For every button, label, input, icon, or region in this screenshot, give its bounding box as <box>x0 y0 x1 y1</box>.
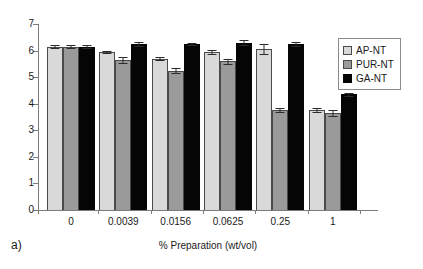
x-tick-mark <box>203 210 204 214</box>
plot-area: 01234567 00.00390.01560.06250.251 <box>38 24 378 210</box>
y-tick-label: 3 <box>28 125 34 135</box>
bar-slot <box>204 24 220 210</box>
error-bar-cap-lower <box>276 112 285 113</box>
x-tick-label: 1 <box>330 216 336 227</box>
bar-ga-nt-1 <box>341 94 357 210</box>
error-bar-cap-upper <box>171 68 180 69</box>
error-bar-cap-lower <box>187 45 196 46</box>
error-bar-line <box>264 44 265 54</box>
x-tick-mark <box>98 210 99 214</box>
x-tick-label: 0.0039 <box>108 216 139 227</box>
bar-ap-nt-0 <box>47 47 63 210</box>
error-bar-cap-upper <box>51 45 60 46</box>
error-bar-cap-upper <box>312 108 321 109</box>
bar-group-bars <box>98 24 150 210</box>
y-tick-label: 1 <box>28 178 34 188</box>
bar-ap-nt-0.0625 <box>204 52 220 210</box>
error-bar-cap-lower <box>51 48 60 49</box>
x-tick-mark <box>360 210 361 214</box>
legend-label: GA-NT <box>356 73 387 84</box>
bar-ga-nt-0.0625 <box>236 43 252 210</box>
error-bar-cap-lower <box>135 46 144 47</box>
legend-label: PUR-NT <box>356 59 394 70</box>
error-bar-cap-lower <box>240 45 249 46</box>
legend-item-ap-nt: AP-NT <box>343 43 394 57</box>
bar-group-bars <box>203 24 255 210</box>
bar-pur-nt-0.25 <box>272 110 288 210</box>
bar-pur-nt-1 <box>325 113 341 210</box>
y-tick-label: 7 <box>28 19 34 29</box>
error-bar-cap-upper <box>208 50 217 51</box>
x-tick-label: 0.0625 <box>213 216 244 227</box>
bar-slot <box>99 24 115 210</box>
error-bar-cap-upper <box>135 42 144 43</box>
bar-slot <box>256 24 272 210</box>
y-tick-label: 6 <box>28 46 34 56</box>
bar-slot <box>168 24 184 210</box>
bar-slot <box>63 24 79 210</box>
error-bar-cap-lower <box>103 53 112 54</box>
y-axis-line <box>38 24 39 211</box>
x-tick-label: 0 <box>68 216 74 227</box>
error-bar-cap-lower <box>344 96 353 97</box>
panel-label: a) <box>11 238 22 252</box>
bar-group <box>151 24 203 210</box>
x-tick-mark <box>151 210 152 214</box>
bar-group-bars <box>255 24 307 210</box>
x-axis-title: % Preparation (wt/vol) <box>38 240 378 251</box>
bar-pur-nt-0.0156 <box>168 71 184 211</box>
bar-ga-nt-0.0039 <box>131 44 147 210</box>
bar-group <box>46 24 98 210</box>
legend-swatch-pur-nt <box>343 60 352 69</box>
bar-group-bars <box>151 24 203 210</box>
error-bar-cap-lower <box>224 64 233 65</box>
bar-slot <box>47 24 63 210</box>
error-bar-cap-upper <box>328 110 337 111</box>
error-bar-cap-upper <box>292 42 301 43</box>
bar-group <box>203 24 255 210</box>
error-bar-cap-lower <box>312 112 321 113</box>
error-bar-cap-upper <box>187 43 196 44</box>
error-bar-cap-upper <box>83 45 92 46</box>
error-bar-cap-lower <box>260 54 269 55</box>
bar-ap-nt-1 <box>309 110 325 210</box>
error-bar-cap-lower <box>292 46 301 47</box>
bar-group <box>98 24 150 210</box>
error-bar-cap-upper <box>240 40 249 41</box>
bar-pur-nt-0 <box>63 47 79 210</box>
bar-ap-nt-0.0039 <box>99 52 115 210</box>
error-bar-cap-upper <box>155 57 164 58</box>
legend-item-pur-nt: PUR-NT <box>343 57 394 71</box>
error-bar-cap-lower <box>67 48 76 49</box>
x-tick-mark <box>255 210 256 214</box>
bar-group <box>255 24 307 210</box>
bar-slot <box>288 24 304 210</box>
error-bar-cap-lower <box>83 48 92 49</box>
bar-slot <box>115 24 131 210</box>
bar-ga-nt-0.25 <box>288 44 304 210</box>
bar-chart-figure: 01234567 00.00390.01560.06250.251 % Prep… <box>0 0 423 269</box>
error-bar-cap-upper <box>103 51 112 52</box>
bar-pur-nt-0.0625 <box>220 61 236 210</box>
chart-legend: AP-NTPUR-NTGA-NT <box>338 38 401 90</box>
bar-ap-nt-0.25 <box>256 49 272 210</box>
x-tick-label: 0.0156 <box>160 216 191 227</box>
error-bar-cap-upper <box>67 45 76 46</box>
bar-slot <box>79 24 95 210</box>
error-bar-cap-lower <box>119 63 128 64</box>
bar-slot <box>309 24 325 210</box>
bar-slot <box>272 24 288 210</box>
bar-ap-nt-0.0156 <box>152 59 168 210</box>
bar-ga-nt-0 <box>79 47 95 210</box>
x-tick-mark <box>38 210 39 214</box>
y-tick-label: 0 <box>28 205 34 215</box>
legend-swatch-ap-nt <box>343 46 352 55</box>
x-tick-label: 0.25 <box>271 216 290 227</box>
legend-swatch-ga-nt <box>343 74 352 83</box>
bar-pur-nt-0.0039 <box>115 60 131 210</box>
bar-slot <box>184 24 200 210</box>
error-bar-cap-lower <box>171 73 180 74</box>
bar-slot <box>152 24 168 210</box>
error-bar-cap-upper <box>224 59 233 60</box>
x-tick-mark <box>308 210 309 214</box>
